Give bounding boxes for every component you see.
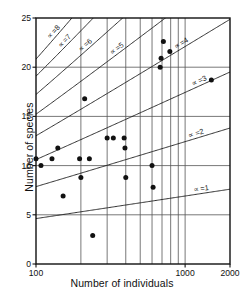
annotation-alpha-7: ∝ =7 <box>56 32 73 49</box>
data-point <box>167 49 172 54</box>
y-tick-label: 25 <box>21 13 31 23</box>
plot-frame <box>36 18 230 264</box>
data-point <box>159 56 164 61</box>
data-point <box>151 185 156 190</box>
data-point <box>122 136 127 141</box>
annotation-alpha-6: ∝ =6 <box>76 37 94 54</box>
data-point <box>161 39 166 44</box>
y-tick-label: 10 <box>21 161 31 171</box>
x-tick-label: 1000 <box>176 268 195 278</box>
data-point <box>55 145 60 150</box>
curve-alpha-1 <box>36 189 230 218</box>
scatter-plot: ∝ =1∝ =2∝ =3∝ =4∝ =5∝ =6∝ =7∝ =805101520… <box>0 0 244 294</box>
data-point <box>105 136 110 141</box>
y-tick-label: 5 <box>26 210 31 220</box>
data-point <box>122 145 127 150</box>
data-point <box>38 163 43 168</box>
figure: Number of species Number of individuals … <box>0 0 244 294</box>
data-point <box>82 96 87 101</box>
data-point <box>77 156 82 161</box>
data-point <box>49 156 54 161</box>
y-tick-label: 15 <box>21 111 31 121</box>
y-tick-label: 20 <box>21 62 31 72</box>
x-tick-label: 2000 <box>220 268 239 278</box>
data-point <box>78 175 83 180</box>
data-point <box>209 77 214 82</box>
data-point <box>150 163 155 168</box>
data-point <box>123 175 128 180</box>
x-tick-label: 100 <box>29 268 44 278</box>
data-point <box>90 233 95 238</box>
annotation-alpha-2: ∝ =2 <box>187 127 204 140</box>
data-point <box>158 65 163 70</box>
data-point <box>34 156 39 161</box>
curve-alpha-5 <box>36 0 230 114</box>
curve-alpha-2 <box>36 128 230 187</box>
data-point <box>111 136 116 141</box>
data-point <box>61 194 66 199</box>
data-point <box>87 156 92 161</box>
curve-alpha-8 <box>36 0 230 59</box>
curve-alpha-3 <box>36 72 230 160</box>
